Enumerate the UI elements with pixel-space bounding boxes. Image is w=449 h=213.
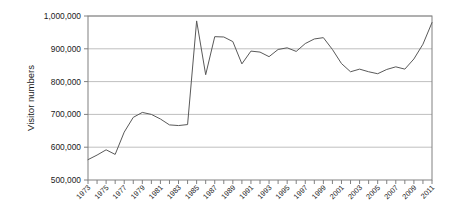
x-axis-tick-labels: 1973197519771979198119831985198719891991…: [74, 183, 436, 201]
series-visitor-numbers: [88, 21, 432, 160]
x-tick-label: 1999: [310, 183, 328, 201]
x-tick-label: 1975: [93, 183, 111, 201]
x-tick-label: 1979: [129, 183, 147, 201]
x-tick-label: 1989: [219, 183, 237, 201]
x-tick-label: 1987: [201, 183, 219, 201]
x-tick-label: 1993: [255, 183, 273, 201]
gridlines: [88, 16, 432, 147]
y-tick-label: 900,000: [51, 44, 82, 54]
y-axis-title: Visitor numbers: [25, 65, 36, 131]
y-tick-label: 1,000,000: [44, 11, 82, 21]
x-tick-label: 2003: [346, 183, 364, 201]
y-axis-tick-labels: 500,000600,000700,000800,000900,0001,000…: [44, 11, 82, 185]
plot-border: [88, 16, 432, 180]
chart-canvas: 500,000600,000700,000800,000900,0001,000…: [0, 0, 449, 213]
x-tick-label: 1977: [111, 183, 129, 201]
data-series-line: [88, 21, 432, 160]
x-tick-label: 2011: [419, 183, 437, 201]
visitor-numbers-line-chart: 500,000600,000700,000800,000900,0001,000…: [0, 0, 449, 213]
x-tick-label: 2001: [328, 183, 346, 201]
y-tick-label: 600,000: [51, 142, 82, 152]
x-tick-label: 2007: [382, 183, 400, 201]
x-tick-label: 1981: [147, 183, 165, 201]
x-tick-label: 1983: [165, 183, 183, 201]
y-tick-label: 500,000: [51, 175, 82, 185]
x-tick-label: 1973: [74, 183, 92, 201]
x-tick-label: 1997: [292, 183, 310, 201]
y-axis-ticks: [84, 16, 88, 180]
y-tick-label: 700,000: [51, 109, 82, 119]
x-tick-label: 2005: [364, 183, 382, 201]
y-tick-label: 800,000: [51, 77, 82, 87]
plot-frame: [88, 16, 432, 180]
x-tick-label: 1995: [274, 183, 292, 201]
x-tick-label: 1991: [237, 183, 255, 201]
x-tick-label: 2009: [400, 183, 418, 201]
x-tick-label: 1985: [183, 183, 201, 201]
